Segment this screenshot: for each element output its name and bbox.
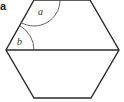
angle-a-label: a	[38, 6, 43, 17]
hexagon-outline	[6, 0, 119, 98]
part-label: a	[0, 1, 6, 12]
angle-b-label: b	[17, 36, 22, 47]
hexagon-diagram: a a b	[0, 0, 124, 102]
angle-b-arc	[20, 26, 34, 50]
hexagon-svg: a b	[0, 0, 124, 102]
